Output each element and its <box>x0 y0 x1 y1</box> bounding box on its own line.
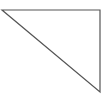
right-triangle-shape <box>2 10 100 92</box>
triangle-diagram <box>0 0 103 97</box>
